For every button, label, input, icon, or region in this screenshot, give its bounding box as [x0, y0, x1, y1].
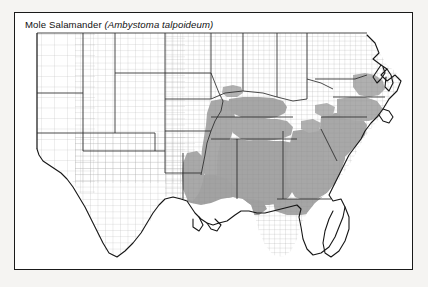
- county-distribution-map: [15, 13, 412, 269]
- distribution-map-figure: Mole Salamander (Ambystoma talpoideum): [0, 0, 428, 287]
- title-common-name: Mole Salamander: [25, 19, 102, 30]
- map-frame: Mole Salamander (Ambystoma talpoideum): [14, 12, 413, 270]
- title-scientific-name: (Ambystoma talpoideum): [104, 19, 213, 30]
- page-title: Mole Salamander (Ambystoma talpoideum): [25, 19, 213, 31]
- map-alt-description: county-level species distribution / rang…: [0, 0, 1, 1]
